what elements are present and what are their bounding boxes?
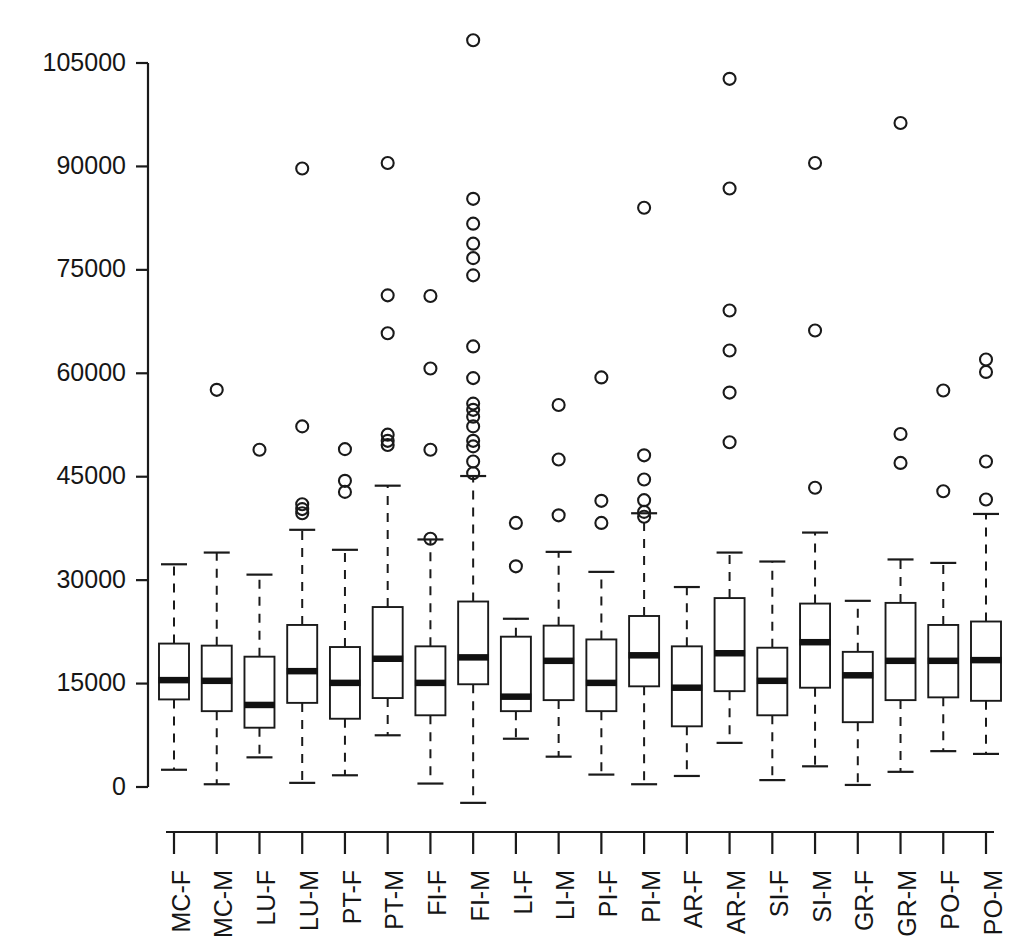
box-group-mc-m bbox=[201, 384, 232, 784]
box-iqr bbox=[159, 644, 189, 700]
x-tick-label-li-m: LI-M bbox=[551, 870, 579, 920]
outlier-point bbox=[980, 366, 992, 378]
outlier-point bbox=[553, 453, 565, 465]
x-tick-label-si-f: SI-F bbox=[765, 870, 793, 917]
box-iqr bbox=[244, 657, 274, 728]
box-group-pt-m bbox=[372, 157, 403, 735]
box-iqr bbox=[501, 637, 531, 711]
y-tick-label: 45000 bbox=[56, 461, 126, 489]
outlier-point bbox=[382, 327, 394, 339]
outlier-point bbox=[424, 362, 436, 374]
outlier-point bbox=[809, 157, 821, 169]
outlier-point bbox=[980, 353, 992, 365]
outlier-point bbox=[467, 340, 479, 352]
outlier-point bbox=[382, 157, 394, 169]
outlier-point bbox=[553, 509, 565, 521]
box-group-pi-f bbox=[586, 371, 617, 774]
y-tick-label: 15000 bbox=[56, 668, 126, 696]
outlier-point bbox=[424, 290, 436, 302]
y-tick-label: 0 bbox=[112, 772, 126, 800]
y-tick-label: 60000 bbox=[56, 358, 126, 386]
box-group-gr-f bbox=[842, 601, 873, 785]
outlier-point bbox=[638, 473, 650, 485]
x-tick-label-lu-f: LU-F bbox=[252, 870, 280, 926]
box-group-po-f bbox=[928, 385, 959, 752]
box-group-mc-f bbox=[159, 564, 190, 769]
y-tick-label: 75000 bbox=[56, 254, 126, 282]
x-tick-label-mc-m: MC-M bbox=[209, 870, 237, 938]
outlier-point bbox=[595, 371, 607, 383]
outlier-point bbox=[595, 495, 607, 507]
box-iqr bbox=[458, 602, 488, 685]
outlier-point bbox=[724, 73, 736, 85]
outlier-point bbox=[467, 269, 479, 281]
outlier-point bbox=[980, 493, 992, 505]
outlier-point bbox=[211, 384, 223, 396]
box-iqr bbox=[629, 616, 659, 686]
outlier-point bbox=[724, 305, 736, 317]
x-tick-label-lu-m: LU-M bbox=[295, 870, 323, 931]
y-tick-label: 30000 bbox=[56, 565, 126, 593]
boxplot-svg: 0150003000045000600007500090000105000MC-… bbox=[0, 0, 1034, 949]
y-tick-label: 90000 bbox=[56, 151, 126, 179]
outlier-point bbox=[467, 238, 479, 250]
outlier-point bbox=[467, 34, 479, 46]
outlier-point bbox=[510, 560, 522, 572]
outlier-point bbox=[895, 428, 907, 440]
outlier-point bbox=[467, 372, 479, 384]
outlier-point bbox=[724, 436, 736, 448]
x-tick-label-pi-m: PI-M bbox=[637, 870, 665, 923]
boxplot-chart: 0150003000045000600007500090000105000MC-… bbox=[0, 0, 1034, 949]
box-group-si-f bbox=[757, 562, 788, 781]
x-tick-label-si-m: SI-M bbox=[808, 870, 836, 923]
outlier-point bbox=[296, 420, 308, 432]
box-group-lu-f bbox=[244, 444, 275, 758]
x-tick-label-mc-f: MC-F bbox=[167, 870, 195, 932]
box-group-gr-m bbox=[885, 117, 916, 772]
outlier-point bbox=[638, 202, 650, 214]
x-tick-label-li-f: LI-F bbox=[509, 870, 537, 914]
box-iqr bbox=[287, 625, 317, 703]
outlier-point bbox=[595, 517, 607, 529]
box-iqr bbox=[800, 604, 830, 688]
box-iqr bbox=[886, 603, 916, 700]
outlier-point bbox=[467, 193, 479, 205]
box-iqr bbox=[715, 598, 745, 691]
x-tick-label-pt-m: PT-M bbox=[380, 870, 408, 930]
outlier-point bbox=[809, 482, 821, 494]
box-group-li-f bbox=[500, 517, 531, 739]
x-tick-label-ar-f: AR-F bbox=[679, 870, 707, 928]
x-tick-label-pi-f: PI-F bbox=[594, 870, 622, 917]
outlier-point bbox=[510, 517, 522, 529]
x-tick-label-gr-f: GR-F bbox=[850, 870, 878, 931]
x-tick-label-po-m: PO-M bbox=[979, 870, 1007, 935]
box-group-ar-f bbox=[671, 587, 702, 776]
outlier-point bbox=[895, 457, 907, 469]
outlier-point bbox=[382, 289, 394, 301]
box-group-si-m bbox=[800, 157, 831, 766]
box-iqr bbox=[373, 607, 403, 698]
x-tick-label-gr-m: GR-M bbox=[893, 870, 921, 937]
x-tick-label-ar-m: AR-M bbox=[722, 870, 750, 934]
outlier-point bbox=[724, 345, 736, 357]
box-group-fi-f bbox=[415, 290, 446, 783]
outlier-point bbox=[467, 456, 479, 468]
y-tick-label: 105000 bbox=[43, 48, 126, 76]
outlier-point bbox=[638, 449, 650, 461]
outlier-point bbox=[980, 456, 992, 468]
outlier-point bbox=[467, 252, 479, 264]
box-group-fi-m bbox=[458, 34, 489, 803]
box-iqr bbox=[586, 639, 616, 711]
box-group-po-m bbox=[971, 353, 1002, 753]
outlier-point bbox=[809, 325, 821, 337]
outlier-point bbox=[467, 218, 479, 230]
box-group-pt-f bbox=[329, 443, 360, 775]
box-group-lu-m bbox=[287, 162, 318, 782]
outlier-point bbox=[724, 387, 736, 399]
outlier-point bbox=[424, 444, 436, 456]
box-group-pi-m bbox=[629, 202, 660, 784]
outlier-point bbox=[339, 443, 351, 455]
outlier-point bbox=[895, 117, 907, 129]
outlier-point bbox=[724, 182, 736, 194]
outlier-point bbox=[937, 485, 949, 497]
